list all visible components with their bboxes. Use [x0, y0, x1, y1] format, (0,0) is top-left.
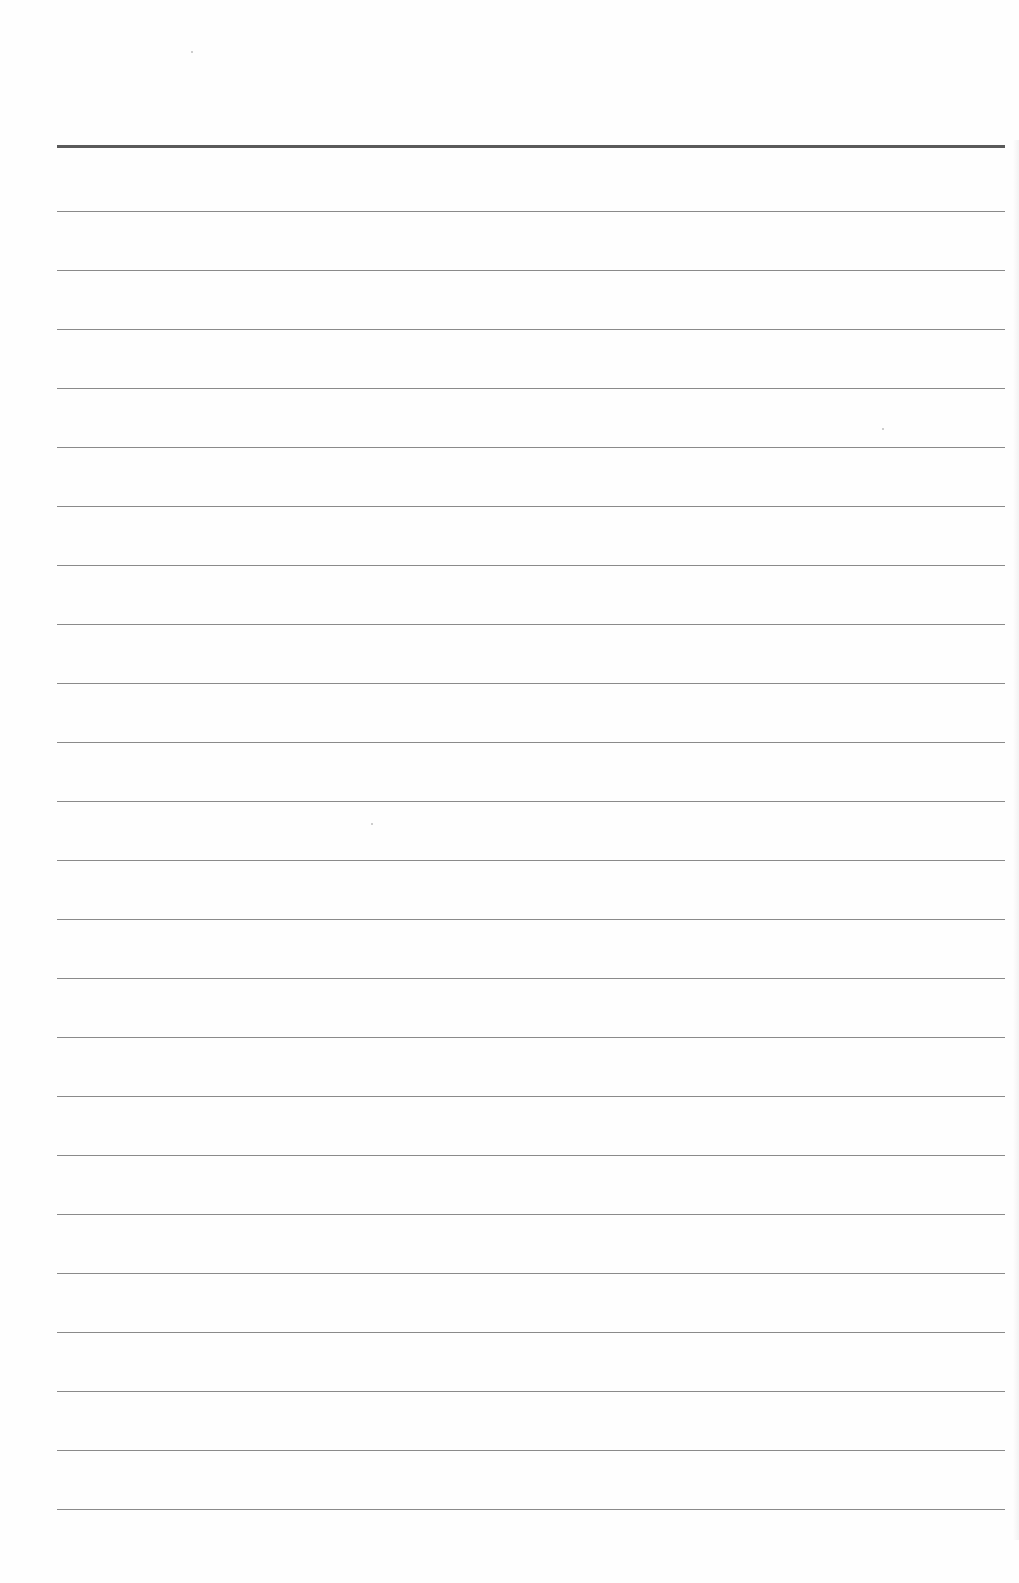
- ruled-line: [57, 1391, 1005, 1392]
- ruled-line: [57, 683, 1005, 684]
- ruled-line: [57, 860, 1005, 861]
- ruled-line: [57, 1332, 1005, 1333]
- paper-speck: [882, 428, 884, 430]
- ruled-line: [57, 565, 1005, 566]
- paper-speck: [371, 823, 373, 825]
- ruled-line: [57, 1037, 1005, 1038]
- ruled-line: [57, 447, 1005, 448]
- ruled-line: [57, 1096, 1005, 1097]
- ruled-line: [57, 1273, 1005, 1274]
- ruled-line: [57, 211, 1005, 212]
- ruled-line: [57, 329, 1005, 330]
- ruled-line: [57, 801, 1005, 802]
- ruled-line: [57, 1450, 1005, 1451]
- ruled-line: [57, 1214, 1005, 1215]
- ruled-line: [57, 919, 1005, 920]
- ruled-line: [57, 1155, 1005, 1156]
- ruled-line: [57, 1509, 1005, 1510]
- paper-speck: [191, 51, 193, 53]
- ruled-line: [57, 506, 1005, 507]
- page-edge-shadow: [1013, 140, 1019, 1540]
- header-rule-line: [57, 145, 1005, 148]
- ruled-paper-page: [0, 0, 1019, 1583]
- ruled-line: [57, 624, 1005, 625]
- ruled-line: [57, 270, 1005, 271]
- ruled-line: [57, 388, 1005, 389]
- ruled-line: [57, 742, 1005, 743]
- ruled-line: [57, 978, 1005, 979]
